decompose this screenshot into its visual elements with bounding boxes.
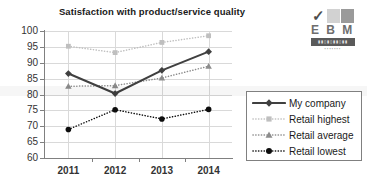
legend-label: Retail highest (289, 114, 350, 125)
y-tick-mark (40, 110, 44, 111)
y-tick-mark (40, 79, 44, 80)
series-layer (45, 31, 232, 158)
data-point-marker (266, 116, 271, 121)
series-line (68, 52, 208, 94)
y-tick-label: 65 (4, 137, 38, 147)
ebm-logo: ✓ E B M ▮▮▯▮▯▮▮▯▮▮ ▪▪▪▪▪▪▪ (310, 7, 357, 53)
chart-legend: My companyRetail highestRetail averageRe… (246, 91, 362, 161)
x-tick-label: 2014 (189, 165, 229, 176)
series-line (68, 109, 208, 129)
legend-key-icon (252, 128, 286, 142)
legend-label: Retail lowest (289, 146, 346, 157)
data-point-marker (66, 127, 72, 133)
legend-key-icon (252, 144, 286, 158)
legend-label: Retail average (289, 130, 353, 141)
y-tick-mark (40, 142, 44, 143)
y-tick-mark (40, 158, 44, 159)
series-line (68, 36, 208, 53)
chart-container: Satisfaction with product/service qualit… (0, 0, 367, 186)
y-tick-label: 60 (4, 153, 38, 163)
x-tick-mark (92, 158, 93, 162)
legend-item-retail-lowest[interactable]: Retail lowest (247, 143, 361, 159)
data-point-marker (265, 99, 272, 106)
data-point-marker (159, 116, 165, 122)
logo-square-light-icon (327, 9, 340, 23)
y-tick-mark (40, 126, 44, 127)
checkmark-icon: ✓ (312, 8, 326, 23)
x-tick-label: 2013 (142, 165, 182, 176)
x-tick-mark (139, 158, 140, 162)
y-tick-label: 80 (4, 90, 38, 100)
legend-item-my-company[interactable]: My company (247, 95, 361, 111)
y-axis-labels: 1009590858075706560 (0, 0, 38, 186)
data-point-marker (112, 107, 118, 113)
y-tick-label: 95 (4, 42, 38, 52)
data-point-marker (205, 63, 212, 69)
data-point-marker (65, 70, 72, 77)
data-point-marker (159, 40, 164, 45)
series-my-company (65, 48, 212, 97)
data-point-marker (266, 148, 272, 154)
data-point-marker (206, 33, 211, 38)
data-point-marker (206, 107, 212, 113)
data-point-marker (66, 44, 71, 49)
logo-square-dark-icon (341, 9, 354, 23)
y-tick-label: 85 (4, 74, 38, 84)
series-retail-highest (66, 33, 211, 55)
logo-bar: ▮▮▯▮▯▮▮▯▮▮ (311, 38, 355, 46)
legend-key-icon (252, 112, 286, 126)
data-point-marker (113, 50, 118, 55)
logo-subtext: ▪▪▪▪▪▪▪ (311, 46, 355, 52)
data-point-marker (159, 75, 166, 81)
y-tick-label: 100 (4, 26, 38, 36)
y-tick-mark (40, 95, 44, 96)
data-point-marker (112, 90, 119, 97)
y-tick-label: 75 (4, 105, 38, 115)
legend-item-retail-highest[interactable]: Retail highest (247, 111, 361, 127)
x-tick-label: 2011 (48, 165, 88, 176)
y-tick-mark (40, 47, 44, 48)
legend-key-icon (252, 96, 286, 110)
x-tick-label: 2012 (95, 165, 135, 176)
data-point-marker (158, 67, 165, 74)
x-tick-mark (185, 158, 186, 162)
y-tick-mark (40, 31, 44, 32)
y-tick-label: 70 (4, 121, 38, 131)
legend-label: My company (289, 98, 346, 109)
logo-wordmark: E B M (311, 24, 356, 37)
plot-area (45, 31, 232, 158)
series-retail-lowest (66, 107, 212, 133)
series-retail-average (65, 63, 212, 89)
chart-title: Satisfaction with product/service qualit… (42, 6, 262, 17)
y-tick-mark (40, 63, 44, 64)
legend-item-retail-average[interactable]: Retail average (247, 127, 361, 143)
y-tick-label: 90 (4, 58, 38, 68)
data-point-marker (205, 48, 212, 55)
